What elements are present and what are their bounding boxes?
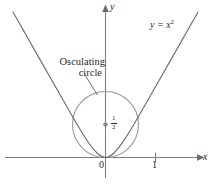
- radius-fraction-label: 1 2: [111, 115, 117, 131]
- fraction-numerator: 1: [111, 115, 117, 122]
- x-axis-label: x: [203, 152, 207, 163]
- curve-equation-exponent: 2: [171, 18, 174, 25]
- curve-equation-label: y = x2: [150, 20, 174, 31]
- y-axis-arrowhead: [102, 5, 109, 13]
- origin-tick-label: 0: [99, 160, 104, 171]
- osculating-label-line2: circle: [39, 67, 105, 78]
- osculating-circle-label: Osculatingcircle: [39, 56, 105, 78]
- osculating-label-line1: Osculating: [60, 56, 106, 67]
- circle-center-dot: [103, 122, 107, 126]
- curve-equation-text: y = x: [150, 19, 171, 30]
- y-axis-label: y: [110, 2, 114, 13]
- osculating-circle-figure: y = x2 Osculatingcircle y x 0 1 1 2: [0, 0, 215, 185]
- x-tick-label-1: 1: [152, 160, 157, 171]
- fraction-denominator: 2: [111, 124, 117, 131]
- figure-canvas: [0, 0, 215, 185]
